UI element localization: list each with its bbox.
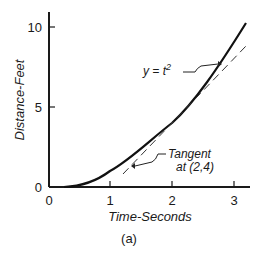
y-axis-title: Distance-Feet (12, 58, 27, 140)
x-tick-label-2: 2 (168, 193, 175, 208)
y-tick-label-0: 0 (35, 180, 42, 195)
figure-caption: (a) (121, 231, 137, 246)
curve-label-leader (183, 64, 218, 72)
tangent-label-line1: Tangent (168, 147, 212, 161)
y-tick-label-5: 5 (35, 100, 42, 115)
x-axis-title: Time-Seconds (108, 209, 192, 224)
tangent-label-leader (135, 154, 166, 166)
x-tick-label-0: 0 (45, 193, 52, 208)
x-tick-label-3: 3 (230, 193, 237, 208)
chart-canvas: 10 5 0 0 1 2 3 Time-Seconds Distance-Fee… (0, 0, 261, 255)
y-tick-label-10: 10 (28, 20, 42, 35)
curve-label: y = t2 (142, 62, 171, 78)
tangent-label-line2: at (2,4) (176, 160, 214, 174)
curve-y-equals-t-squared (64, 23, 246, 187)
x-tick-label-1: 1 (106, 193, 113, 208)
